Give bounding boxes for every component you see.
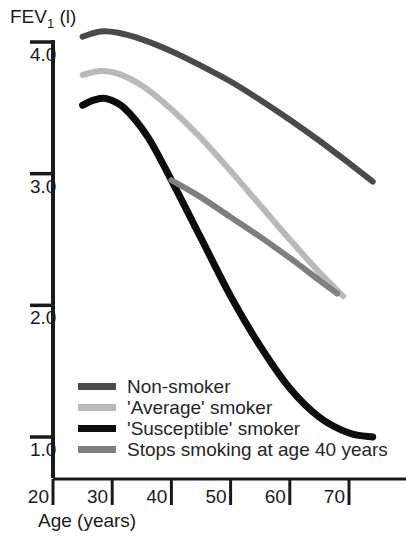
x-axis-title: Age (years) [38,510,136,532]
legend-swatch [78,425,116,432]
y-axis-title-main: FEV [10,6,47,27]
y-axis-tick-label: 3.0 [30,176,56,198]
legend-item-label: 'Average' smoker [127,397,272,418]
x-axis-tick-label: 70 [301,486,345,508]
y-axis-title: FEV1 (l) [10,6,76,31]
legend-item[interactable]: 'Susceptible' smoker [78,418,388,439]
x-axis-tick-label: 40 [123,486,167,508]
y-axis-title-units: (l) [59,6,76,27]
legend-item-label: 'Susceptible' smoker [127,418,300,439]
legend-item-label: Non-smoker [127,376,230,397]
y-axis-tick-label: 1.0 [30,439,56,461]
x-axis-tick-label: 20 [5,486,49,508]
y-axis-tick-label: 2.0 [30,307,56,329]
chart-legend: Non-smoker'Average' smoker'Susceptible' … [78,376,388,460]
x-axis-tick-label: 60 [242,486,286,508]
y-axis-ticks [30,42,53,437]
legend-swatch [78,446,116,453]
legend-swatch [78,404,116,411]
y-axis-title-subscript: 1 [47,16,54,31]
x-axis-tick-label: 50 [183,486,227,508]
legend-swatch [78,383,116,390]
y-axis-tick-label: 4.0 [30,44,56,66]
legend-item[interactable]: Non-smoker [78,376,388,397]
x-axis-tick-label: 30 [64,486,108,508]
legend-item[interactable]: Stops smoking at age 40 years [78,439,388,460]
legend-item[interactable]: 'Average' smoker [78,397,388,418]
legend-item-label: Stops smoking at age 40 years [127,439,388,460]
fev1-decline-chart: FEV1 (l) Age (years) 4.03.02.01.0 203040… [0,0,406,537]
